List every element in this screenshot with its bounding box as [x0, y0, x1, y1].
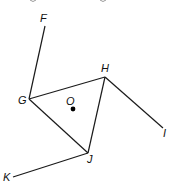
segment-JK: [13, 153, 88, 177]
segment-GF: [29, 26, 45, 99]
label-J: J: [86, 153, 93, 165]
label-I: I: [163, 127, 166, 139]
label-H: H: [101, 62, 109, 74]
geometry-diagram: F G H I J K O: [0, 0, 177, 188]
point-O-dot: [71, 107, 76, 112]
cropped-text-remnants: [30, 0, 106, 2]
segment-HJ: [88, 77, 105, 153]
label-F: F: [40, 12, 48, 24]
label-K: K: [3, 171, 11, 183]
segment-HI: [105, 77, 163, 128]
label-G: G: [18, 94, 27, 106]
label-O: O: [66, 95, 75, 107]
segment-GJ: [29, 99, 88, 153]
